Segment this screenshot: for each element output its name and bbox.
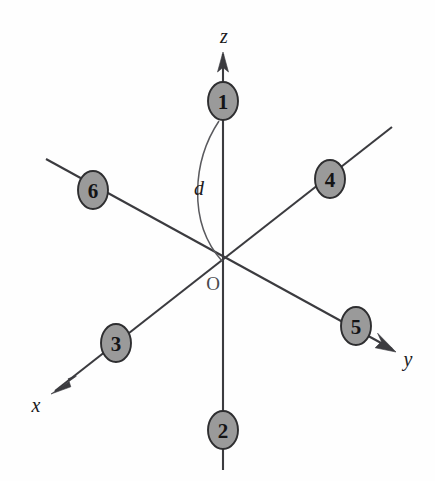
y-axis-label: y <box>402 348 413 371</box>
ligand-node-1[interactable]: 1 <box>208 82 238 120</box>
ligand-label-3: 3 <box>111 332 122 356</box>
octahedral-axes-diagram: O d z y x 1 2 3 4 <box>0 0 435 481</box>
ligand-label-5: 5 <box>351 315 362 339</box>
angle-label-d: d <box>194 177 205 199</box>
origin-label: O <box>206 273 220 294</box>
ligand-label-4: 4 <box>325 168 336 192</box>
ligand-label-2: 2 <box>218 419 229 443</box>
ligand-nodes-group: 1 2 3 4 5 6 <box>78 82 371 449</box>
ligand-node-5[interactable]: 5 <box>341 307 371 345</box>
ligand-node-3[interactable]: 3 <box>101 324 131 362</box>
ligand-label-6: 6 <box>88 179 99 203</box>
z-axis-label: z <box>219 25 228 47</box>
ligand-node-2[interactable]: 2 <box>208 411 238 449</box>
x-axis-arrowhead <box>51 376 76 394</box>
ligand-node-6[interactable]: 6 <box>78 171 108 209</box>
ligand-label-1: 1 <box>218 90 229 114</box>
x-axis-label: x <box>31 394 41 416</box>
ligand-node-4[interactable]: 4 <box>315 160 345 198</box>
figure-root: O d z y x 1 2 3 4 <box>0 0 435 481</box>
